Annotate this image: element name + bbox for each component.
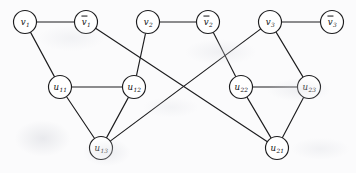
graph-node-nv1	[75, 11, 98, 34]
graph-node-u23	[298, 76, 321, 99]
graph-edge-u12-u13	[106, 97, 128, 138]
graph-node-u11	[49, 76, 72, 99]
graph-node-u22	[230, 76, 253, 99]
graph-node-u12	[123, 76, 146, 99]
graph-node-v1	[14, 11, 37, 34]
graph-edge-u13-u11	[66, 97, 94, 139]
graph-edge-v1-u11	[30, 32, 54, 77]
graph-edge-v2-u12	[136, 33, 145, 76]
graph-canvas	[0, 0, 356, 173]
graph-figure: v1v1v2v2v3v3u11u12u13u22u23u21	[0, 0, 356, 173]
graph-node-u21	[266, 137, 289, 160]
graph-node-nv3	[321, 11, 344, 34]
graph-node-v3	[259, 11, 282, 34]
graph-edge-v3-u23	[276, 32, 303, 77]
graph-edge-u23-u21	[282, 97, 303, 138]
node-layer	[14, 11, 344, 160]
edge-layer	[30, 22, 320, 142]
graph-node-v2	[137, 11, 160, 34]
graph-edge-u21-u22	[247, 97, 271, 138]
graph-node-u13	[90, 137, 113, 160]
graph-edge-nv2-u22	[213, 32, 236, 77]
graph-node-nv2	[197, 11, 220, 34]
